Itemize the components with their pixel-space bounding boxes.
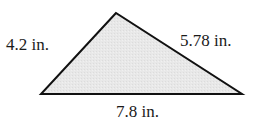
side-label-bottom: 7.8 in. bbox=[116, 103, 159, 120]
side-label-right: 5.78 in. bbox=[180, 32, 231, 49]
triangle-polygon bbox=[41, 13, 242, 94]
side-label-left: 4.2 in. bbox=[6, 36, 49, 53]
triangle-figure: 4.2 in. 5.78 in. 7.8 in. bbox=[0, 0, 253, 127]
